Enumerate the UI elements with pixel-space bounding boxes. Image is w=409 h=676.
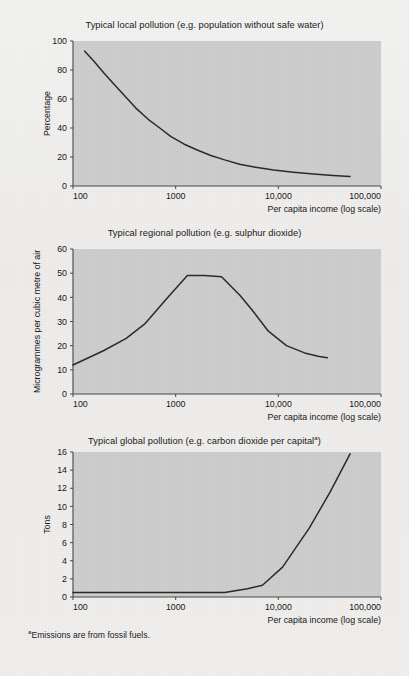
y-tick-label-2-2: 4 [62, 556, 67, 566]
footnote-text: Emissions are from fossil fuels. [31, 630, 149, 640]
y-tick-label-2-8: 16 [57, 447, 67, 457]
y-tick-label-2-7: 14 [57, 465, 67, 475]
x-tick-label-1-2: 10,000 [265, 399, 292, 409]
y-tick-label-1-2: 20 [57, 341, 67, 351]
y-tick-label-0-2: 40 [57, 123, 67, 133]
plot-area-1 [73, 249, 381, 394]
y-tick-label-2-5: 10 [57, 502, 67, 512]
y-tick-label-2-1: 2 [62, 574, 67, 584]
chart-svg-0: 020406080100100100010,000100,000Per capi… [0, 14, 409, 219]
y-axis-title-1: Microgrammes per cubic metre of air [32, 250, 42, 393]
x-tick-label-0-3: 100,000 [349, 191, 381, 201]
x-tick-label-2-2: 10,000 [265, 602, 292, 612]
y-tick-label-1-3: 30 [57, 317, 67, 327]
x-tick-label-2-0: 100 [73, 602, 88, 612]
y-tick-label-1-5: 50 [57, 268, 67, 278]
footnote: aEmissions are from fossil fuels. [28, 630, 150, 640]
y-axis-title-2: Tons [42, 515, 52, 534]
y-tick-label-0-0: 0 [62, 181, 67, 191]
plot-area-0 [73, 41, 381, 186]
y-tick-label-0-1: 20 [57, 152, 67, 162]
y-tick-label-2-4: 8 [62, 520, 67, 530]
x-tick-label-0-0: 100 [73, 191, 88, 201]
x-tick-label-2-3: 100,000 [349, 602, 381, 612]
y-tick-label-0-4: 80 [57, 65, 67, 75]
chart-panel-regional-pollution: Typical regional pollution (e.g. sulphur… [0, 222, 409, 427]
x-tick-label-1-1: 1000 [166, 399, 186, 409]
y-tick-label-1-0: 0 [62, 389, 67, 399]
chart-svg-2: 0246810121416100100010,000100,000Per cap… [0, 430, 409, 630]
chart-panel-global-pollution: Typical global pollution (e.g. carbon di… [0, 430, 409, 630]
x-tick-label-1-3: 100,000 [349, 399, 381, 409]
chart-svg-1: 0102030405060100100010,000100,000Per cap… [0, 222, 409, 427]
x-tick-label-1-0: 100 [73, 399, 88, 409]
x-axis-title-0: Per capita income (log scale) [268, 204, 382, 214]
y-tick-label-2-6: 12 [57, 483, 67, 493]
y-tick-label-1-1: 10 [57, 365, 67, 375]
x-tick-label-2-1: 1000 [166, 602, 186, 612]
x-axis-title-1: Per capita income (log scale) [268, 412, 382, 422]
y-tick-label-0-3: 60 [57, 94, 67, 104]
y-tick-label-1-4: 40 [57, 293, 67, 303]
y-tick-label-1-6: 60 [57, 244, 67, 254]
plot-area-2 [73, 452, 381, 597]
y-tick-label-0-5: 100 [52, 36, 67, 46]
figure-container: Typical local pollution (e.g. population… [0, 0, 409, 676]
x-axis-title-2: Per capita income (log scale) [268, 615, 382, 625]
chart-panel-local-pollution: Typical local pollution (e.g. population… [0, 14, 409, 219]
y-tick-label-2-3: 6 [62, 538, 67, 548]
x-tick-label-0-2: 10,000 [265, 191, 292, 201]
y-tick-label-2-0: 0 [62, 592, 67, 602]
x-tick-label-0-1: 1000 [166, 191, 186, 201]
y-axis-title-0: Percentage [42, 91, 52, 136]
